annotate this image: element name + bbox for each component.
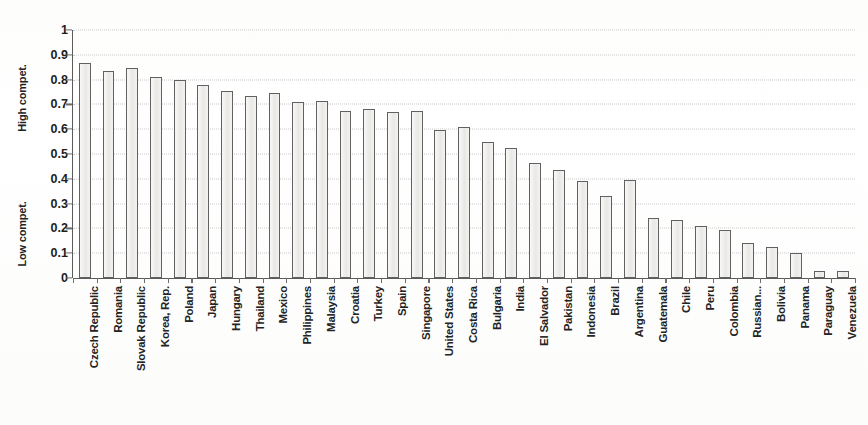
x-tick-mark <box>120 278 121 283</box>
x-tick-mark <box>405 278 406 283</box>
y-tick-mark <box>66 129 72 130</box>
x-axis-label: Colombia <box>729 286 741 336</box>
x-axis-category-labels: Czech RepublicRomaniaSlovak RepublicKore… <box>0 0 868 425</box>
x-tick-mark <box>168 278 169 283</box>
bar-chart: High compet. Low compet. 10.90.80.70.60.… <box>0 0 868 425</box>
x-axis-label: Slovak Republic <box>136 286 148 371</box>
x-tick-mark <box>97 278 98 283</box>
x-axis-label: Korea, Rep. <box>160 286 172 347</box>
x-axis-label: Venezuela <box>847 286 859 339</box>
y-tick-mark <box>66 277 72 278</box>
x-tick-mark <box>571 278 572 283</box>
x-axis-label: Singapore <box>421 286 433 340</box>
x-axis-label: Pakistan <box>563 286 575 331</box>
y-tick-mark <box>66 54 72 55</box>
x-axis-label: Czech Republic <box>89 286 101 368</box>
y-tick-mark <box>66 153 72 154</box>
x-tick-mark <box>665 278 666 283</box>
x-tick-mark <box>523 278 524 283</box>
x-tick-mark <box>831 278 832 283</box>
x-axis-label: Bolivia <box>776 286 788 322</box>
x-axis-label: Chile <box>681 286 693 313</box>
x-tick-mark <box>263 278 264 283</box>
x-tick-mark <box>476 278 477 283</box>
x-axis-label: Croatia <box>350 286 362 324</box>
x-axis-label: Poland <box>184 286 196 323</box>
x-tick-mark <box>855 278 856 283</box>
y-tick-mark <box>66 253 72 254</box>
y-tick-mark <box>66 29 72 30</box>
x-axis-label: Brazil <box>610 286 622 316</box>
y-tick-mark <box>66 79 72 80</box>
x-tick-mark <box>737 278 738 283</box>
x-axis-label: Japan <box>207 286 219 318</box>
x-axis-label: Indonesia <box>586 286 598 337</box>
y-tick-mark <box>66 228 72 229</box>
x-tick-mark <box>713 278 714 283</box>
x-tick-mark <box>642 278 643 283</box>
x-tick-mark <box>239 278 240 283</box>
x-axis-label: Hungary <box>231 286 243 331</box>
y-tick-mark <box>66 203 72 204</box>
x-axis-label: Guatemala <box>658 286 670 343</box>
x-tick-mark <box>594 278 595 283</box>
x-tick-mark <box>689 278 690 283</box>
x-tick-mark <box>73 278 74 283</box>
y-tick-mark <box>66 104 72 105</box>
x-tick-mark <box>808 278 809 283</box>
x-axis-label: Mexico <box>278 286 290 324</box>
x-tick-mark <box>357 278 358 283</box>
x-axis-label: Costa Rica <box>468 286 480 343</box>
x-axis-label: Argentina <box>634 286 646 337</box>
x-tick-mark <box>191 278 192 283</box>
x-axis-label: Peru <box>705 286 717 311</box>
x-tick-mark <box>500 278 501 283</box>
x-tick-mark <box>381 278 382 283</box>
x-axis-label: Panama <box>800 286 812 329</box>
x-tick-mark <box>215 278 216 283</box>
x-axis-label: Malaysia <box>326 286 338 332</box>
x-tick-mark <box>428 278 429 283</box>
x-tick-mark <box>334 278 335 283</box>
x-axis-label: Thailand <box>255 286 267 331</box>
x-axis-label: El Salvador <box>539 286 551 346</box>
x-tick-mark <box>452 278 453 283</box>
y-tick-mark <box>66 178 72 179</box>
x-tick-mark <box>784 278 785 283</box>
x-tick-mark <box>547 278 548 283</box>
x-axis-label: India <box>515 286 527 312</box>
x-axis-label: Paraguay <box>823 286 835 336</box>
x-axis-label: Bulgaria <box>492 286 504 330</box>
x-axis-label: Philippines <box>302 286 314 345</box>
x-tick-mark <box>144 278 145 283</box>
x-axis-label: United States <box>444 286 456 356</box>
x-tick-mark <box>760 278 761 283</box>
x-tick-mark <box>286 278 287 283</box>
x-tick-mark <box>618 278 619 283</box>
x-axis-label: Russian... <box>752 286 764 338</box>
x-axis-label: Turkey <box>373 286 385 321</box>
x-axis-label: Spain <box>397 286 409 316</box>
x-axis-label: Romania <box>113 286 125 333</box>
x-tick-mark <box>310 278 311 283</box>
